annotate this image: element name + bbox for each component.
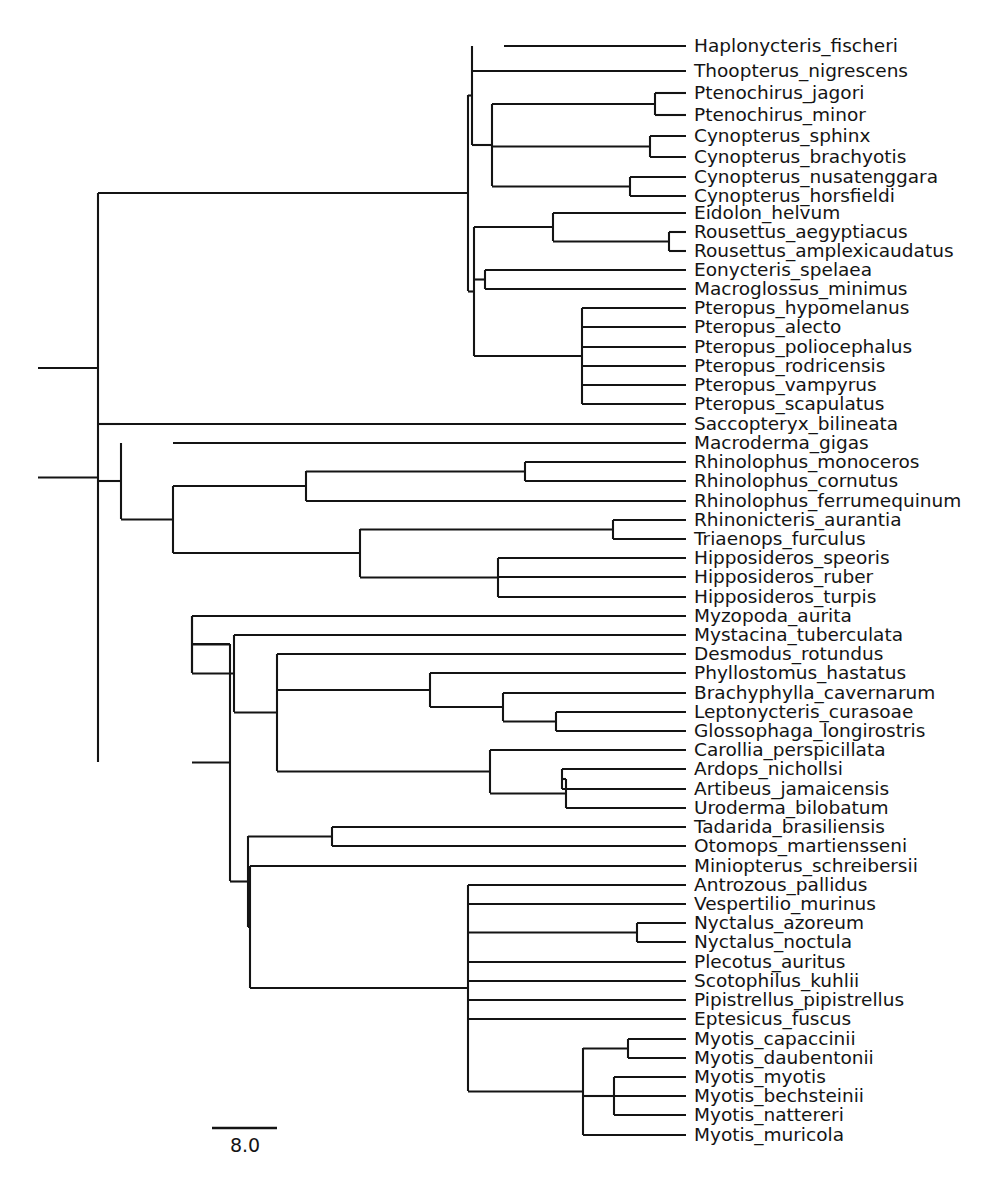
taxon-label: Pteropus_scapulatus bbox=[694, 393, 884, 415]
taxon-label: Phyllostomus_hastatus bbox=[694, 662, 906, 684]
taxon-label: Otomops_martiensseni bbox=[694, 835, 907, 857]
scale-bar-group: 8.0 bbox=[212, 1128, 277, 1156]
taxon-label: Ptenochirus_jagori bbox=[694, 82, 864, 104]
taxon-labels-layer: Haplonycteris_fischeriThoopterus_nigresc… bbox=[693, 35, 961, 1146]
taxon-label: Eptesicus_fuscus bbox=[694, 1008, 851, 1030]
taxon-label: Thoopterus_nigrescens bbox=[693, 60, 908, 82]
taxon-label: Ptenochirus_minor bbox=[694, 104, 866, 126]
taxon-label: Myotis_nattereri bbox=[694, 1104, 844, 1126]
taxon-label: Cynopterus_brachyotis bbox=[694, 146, 906, 168]
taxon-label: Ardops_nichollsi bbox=[694, 758, 843, 780]
taxon-label: Haplonycteris_fischeri bbox=[694, 35, 898, 57]
taxon-label: Myotis_muricola bbox=[694, 1124, 844, 1146]
taxon-label: Nyctalus_noctula bbox=[694, 931, 852, 953]
branches-layer bbox=[38, 46, 686, 1135]
scale-bar-label: 8.0 bbox=[230, 1134, 260, 1156]
taxon-label: Hipposideros_ruber bbox=[694, 566, 874, 588]
phylogenetic-tree-figure: Haplonycteris_fischeriThoopterus_nigresc… bbox=[0, 0, 1007, 1188]
taxon-label: Rhinolophus_cornutus bbox=[694, 470, 898, 492]
taxon-label: Cynopterus_sphinx bbox=[694, 125, 870, 147]
tree-canvas: Haplonycteris_fischeriThoopterus_nigresc… bbox=[0, 0, 1007, 1188]
taxon-label: Pteropus_alecto bbox=[694, 316, 841, 338]
